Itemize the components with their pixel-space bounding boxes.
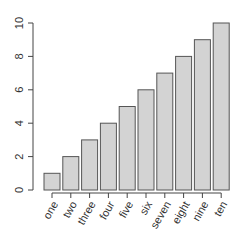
x-axis: onetwothreefourfivesixseveneightnineten [41,193,230,230]
x-tick-label: five [116,199,135,220]
y-tick-label: 0 [13,187,25,193]
bar-seven [157,73,173,190]
x-tick-label: one [41,199,61,221]
y-axis: 0246810 [13,17,33,193]
x-tick-label: three [75,199,98,227]
y-tick-label: 2 [13,154,25,160]
bar-one [44,173,60,190]
x-tick-label: ten [211,199,229,218]
bar-ten [213,23,229,190]
bar-eight [176,56,192,190]
x-tick-label: six [137,199,154,217]
bar-four [100,123,116,190]
y-tick-label: 10 [13,17,25,29]
bar-five [119,107,135,191]
y-tick-label: 4 [13,120,25,126]
bar-six [138,90,154,190]
bar-chart: 0246810 onetwothreefourfivesixseveneight… [0,0,245,240]
y-tick-label: 8 [13,53,25,59]
bar-nine [194,40,210,190]
x-tick-label: four [97,199,117,222]
bars [44,23,229,190]
x-tick-label: eight [169,199,191,226]
y-tick-label: 6 [13,87,25,93]
bar-three [82,140,98,190]
x-tick-label: nine [190,199,211,223]
bar-two [63,157,79,190]
